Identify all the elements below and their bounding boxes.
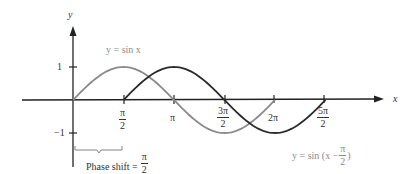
x-tick-label-pi: π <box>170 113 175 123</box>
x-axis-label: x <box>393 94 397 104</box>
x-tick-label-pi-2: π 2 <box>119 108 126 131</box>
x-tick-label-5pi-2: 5π 2 <box>317 106 329 129</box>
phase-shift-brace <box>75 146 122 153</box>
phase-shift-fraction: π 2 <box>141 152 148 174</box>
y-axis-arrow-icon <box>70 26 77 36</box>
x-tick-label-2pi: 2π <box>268 113 278 123</box>
legend-fraction: π 2 <box>339 144 346 167</box>
y-tick-label-neg1: −1 <box>54 128 65 138</box>
y-axis-label: y <box>68 10 72 20</box>
phase-shift-annotation: Phase shift = π 2 <box>86 155 148 174</box>
x-axis-arrow-icon <box>374 96 384 103</box>
y-tick-label-1: 1 <box>57 62 62 72</box>
legend-sin-shift: y = sin (x − π 2 ) <box>292 144 351 167</box>
x-tick-label-3pi-2: 3π 2 <box>217 106 229 129</box>
legend-sin-x: y = sin x <box>106 45 141 55</box>
